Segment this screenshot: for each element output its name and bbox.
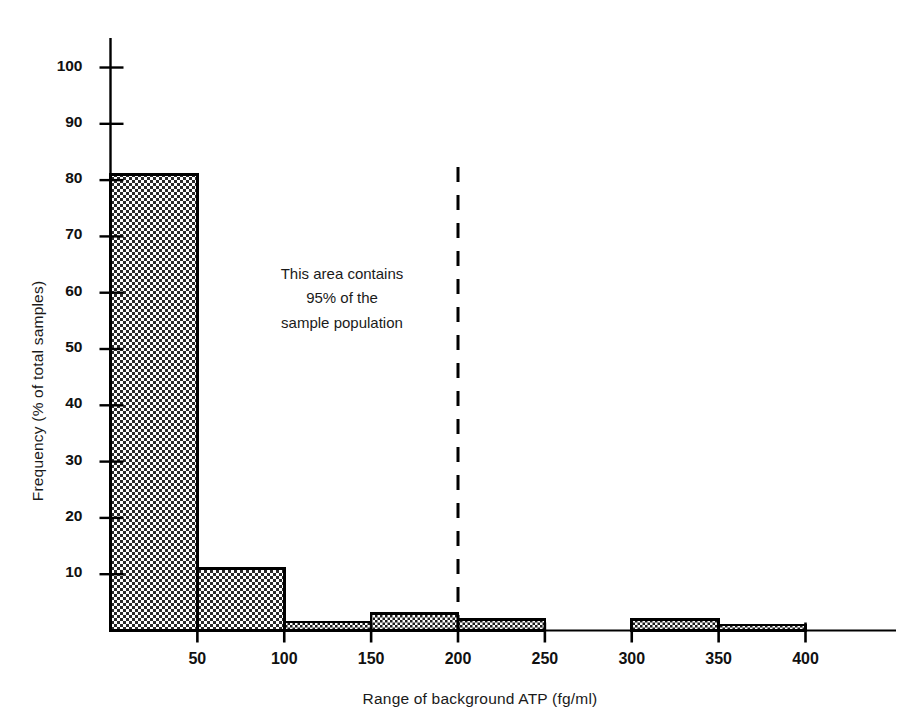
bar-100-150 [284, 622, 371, 630]
bar-0-50 [111, 174, 198, 630]
plot-area [0, 0, 911, 727]
axis-lines [100, 38, 897, 643]
chart-figure: Frequency (% of total samples) Range of … [0, 0, 911, 727]
bar-50-100 [197, 569, 284, 631]
bar-150-200 [371, 614, 458, 631]
bar-300-350 [632, 619, 719, 630]
bar-200-250 [458, 619, 545, 630]
